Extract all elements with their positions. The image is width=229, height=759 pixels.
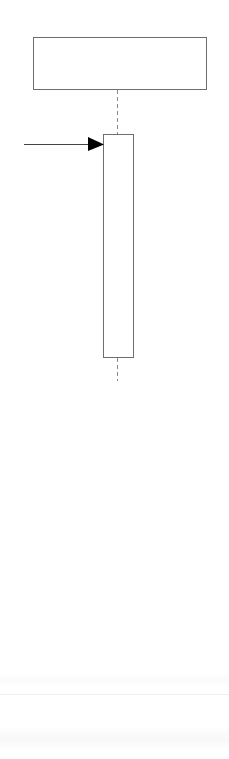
diagram-page bbox=[0, 0, 229, 759]
lower-column-rectangle bbox=[104, 135, 134, 358]
inlet-arrow-head-icon bbox=[88, 137, 104, 151]
upper-block-rectangle bbox=[34, 38, 207, 90]
diagram-canvas bbox=[0, 0, 229, 759]
